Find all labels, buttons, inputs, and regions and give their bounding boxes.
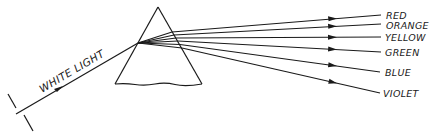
incident-ray (16, 43, 138, 114)
ray-green (178, 41, 381, 52)
prism-dispersion-diagram: WHITE LIGHT (0, 0, 431, 135)
label-blue: BLUE (385, 67, 411, 78)
ray-yellow (176, 35, 381, 40)
ray-blue (180, 45, 380, 73)
emergent-rays (172, 15, 381, 93)
ray-violet (182, 48, 380, 93)
spectrum-labels: RED ORANGE YELLOW GREEN BLUE VIOLET (383, 10, 429, 99)
label-yellow: YELLOW (385, 32, 426, 43)
white-light-label: WHITE LIGHT (37, 46, 107, 94)
slit (8, 94, 33, 131)
label-orange: ORANGE (386, 20, 429, 31)
label-violet: VIOLET (383, 88, 420, 99)
label-green: GREEN (385, 47, 420, 58)
